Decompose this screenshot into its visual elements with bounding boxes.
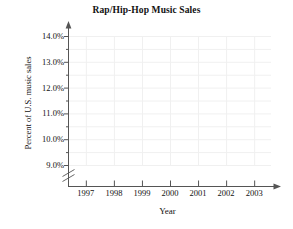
y-axis-arrow-icon — [66, 21, 72, 29]
plot-area — [0, 0, 293, 229]
x-axis-line — [69, 184, 282, 190]
chart-container: Rap/Hip-Hop Music Sales Percent of U.S. … — [0, 0, 293, 229]
x-axis-arrow-icon — [274, 184, 282, 190]
y-axis-line — [66, 21, 72, 187]
x-axis-ticks — [86, 181, 254, 187]
